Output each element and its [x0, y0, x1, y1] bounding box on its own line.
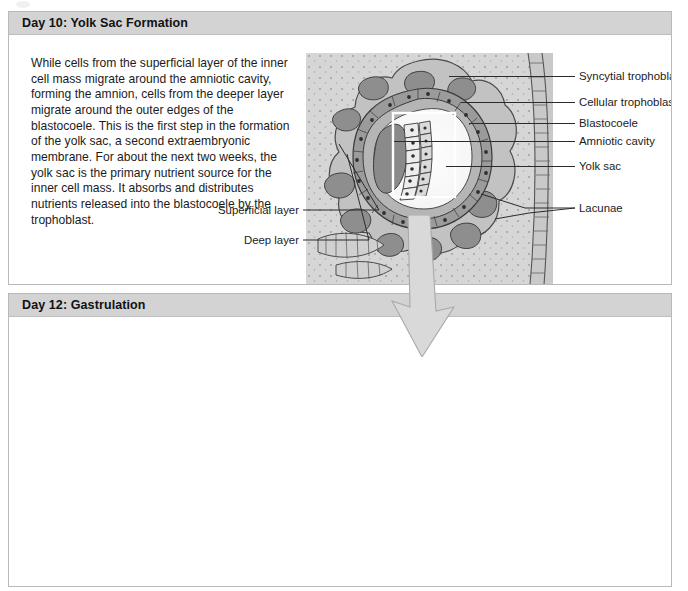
leader-cellular-trophoblast: [461, 102, 575, 103]
panel-day-10-paragraph: While cells from the superficial layer o…: [31, 56, 299, 228]
panel-day-12-header: Day 12: Gastrulation: [9, 294, 671, 317]
label-deep-layer: Deep layer: [149, 234, 299, 247]
label-yolk-sac-10: Yolk sac: [579, 160, 621, 173]
leader-blastocoele: [469, 123, 575, 124]
leader-syncytial-trophoblast: [449, 76, 575, 77]
label-superficial-layer: Superficial layer: [149, 204, 299, 217]
label-amniotic-cavity: Amniotic cavity: [579, 135, 655, 148]
label-syncytial-trophoblast: Syncytial trophoblast: [579, 70, 672, 83]
panel-day-10-header: Day 10: Yolk Sac Formation: [9, 12, 671, 35]
panel-day-12: Day 12: Gastrulation By day 12, superfic…: [8, 293, 672, 587]
panel-day-10-title: Day 10: Yolk Sac Formation: [22, 16, 188, 30]
connector-arrow: [386, 215, 462, 357]
panel-day-10: Day 10: Yolk Sac Formation While cells f…: [8, 11, 672, 285]
label-lacunae: Lacunae: [579, 202, 623, 215]
page-artifact: [16, 1, 30, 8]
label-cellular-trophoblast: Cellular trophoblast: [579, 96, 672, 109]
figure-page: Day 10: Yolk Sac Formation While cells f…: [0, 0, 688, 591]
label-blastocoele: Blastocoele: [579, 117, 638, 130]
panel-day-12-title: Day 12: Gastrulation: [22, 298, 146, 312]
leader-yolk-sac-10: [446, 166, 575, 167]
